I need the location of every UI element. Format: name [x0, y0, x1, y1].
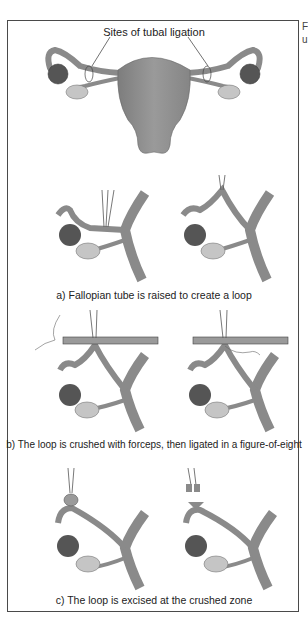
step-c-right-illustration: [158, 468, 288, 593]
step-c-left-illustration: [30, 468, 160, 593]
step-a-caption: a) Fallopian tube is raised to create a …: [0, 289, 308, 301]
step-a-left-illustration: [30, 185, 160, 285]
step-b-right-illustration: [155, 310, 295, 435]
uterus-diagram: [0, 30, 308, 180]
step-a-right-illustration: [155, 175, 285, 285]
step-b-left-illustration: [25, 310, 165, 435]
step-b-caption: b) The loop is crushed with forceps, the…: [0, 439, 308, 450]
step-c-caption: c) The loop is excised at the crushed zo…: [0, 594, 308, 606]
